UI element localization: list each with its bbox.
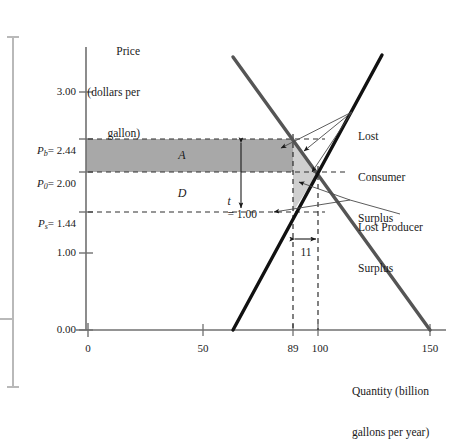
y-axis-title-line1: Price [40,45,140,59]
leader-lcs-3 [312,112,352,172]
x-axis-title: Quantity (billion gallons per year) [352,358,464,443]
tax-wedge-label: t = 1.00 [216,181,257,235]
price-sellers-symbol: P [38,217,45,229]
leader-lcs-2 [304,112,352,151]
price-equilibrium-value: = 2.00 [48,177,76,189]
lps-line2: Surplus [358,262,462,276]
x-axis-title-line2: gallons per year) [352,426,464,440]
quantity-gap-label: 11 [292,246,320,260]
x-axis-title-line1: Quantity (billion [352,385,464,399]
price-buyers-symbol: P [37,144,44,156]
lps-line1: Lost Producer [358,221,462,235]
region-label-a: A [170,148,194,162]
x-tick-label-50: 50 [183,342,223,355]
price-buyers-value: = 2.44 [48,144,76,156]
x-tick-label-150: 150 [410,342,450,355]
region-label-d: D [170,186,194,200]
price-equilibrium-symbol: P [37,177,44,189]
tax-value: = 1.00 [228,208,258,220]
tax-symbol: t [228,195,231,207]
y-tick-label-100: 1.00 [20,246,76,259]
x-tick-label-100: 100 [300,342,340,355]
price-sellers-value: = 1.44 [48,217,76,229]
y-tick-label-price-sellers: Ps= 1.44 [12,204,76,244]
lcs-line2: Consumer [358,171,458,185]
lost-producer-surplus-label: Lost Producer Surplus [358,194,462,303]
x-tick-label-0: 0 [68,342,108,355]
y-tick-label-price-equilibrium: P0= 2.00 [12,164,76,204]
lcs-line1: Lost [358,130,458,144]
y-tick-label-300: 3.00 [20,85,76,98]
y-tick-label-000: 0.00 [20,323,76,336]
